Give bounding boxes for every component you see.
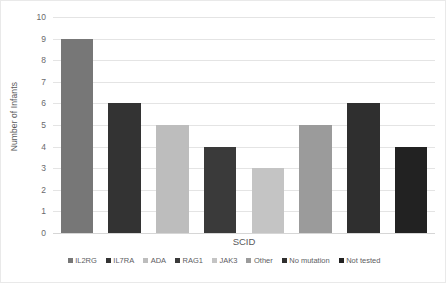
legend-item-label: IL2RG [75,257,97,265]
legend-item-no-mutation[interactable]: No mutation [282,257,330,265]
y-tick-label-5: 5 [41,121,46,130]
legend-swatch-icon [175,258,180,263]
y-tick-label-4: 4 [41,142,46,151]
legend-item-label: Not tested [346,257,380,265]
legend-item-label: JAK3 [220,257,238,265]
y-tick-label-7: 7 [41,78,46,87]
y-tick-label-10: 10 [37,13,46,22]
bar-il7ra [108,103,140,233]
y-tick-label-9: 9 [41,34,46,43]
legend-item-not-tested[interactable]: Not tested [339,257,381,265]
x-axis-title: SCID [53,236,435,247]
gridline-0 [53,233,435,234]
legend-item-rag1[interactable]: RAG1 [175,257,203,265]
bar-jak3 [252,168,284,233]
bar-no-mutation [347,103,379,233]
chart-legend: IL2RGIL7RAADARAG1JAK3OtherNo mutationNot… [1,257,446,265]
legend-swatch-icon [143,258,148,263]
y-tick-label-1: 1 [41,207,46,216]
legend-item-label: Other [254,257,273,265]
bar-il2rg [61,39,93,233]
y-tick-label-6: 6 [41,99,46,108]
y-tick-label-3: 3 [41,164,46,173]
legend-item-label: IL7RA [113,257,134,265]
plot-area: 012345678910 [53,17,435,233]
legend-swatch-icon [246,258,251,263]
y-axis-title: Number of Infants [5,1,23,233]
legend-swatch-icon [212,258,217,263]
legend-swatch-icon [282,258,287,263]
bar-other [299,125,331,233]
y-tick-label-2: 2 [41,186,46,195]
legend-item-label: No mutation [289,257,329,265]
legend-item-label: RAG1 [183,257,203,265]
bar-rag1 [204,147,236,233]
legend-swatch-icon [339,258,344,263]
bar-ada [156,125,188,233]
legend-item-jak3[interactable]: JAK3 [212,257,237,265]
y-tick-label-8: 8 [41,56,46,65]
bar-chart-figure: Number of Infants 012345678910 SCID IL2R… [0,0,446,283]
legend-item-il7ra[interactable]: IL7RA [106,257,134,265]
bar-series [53,17,435,233]
bar-not-tested [395,147,427,233]
legend-swatch-icon [106,258,111,263]
legend-item-il2rg[interactable]: IL2RG [68,257,97,265]
y-tick-label-0: 0 [41,229,46,238]
legend-item-ada[interactable]: ADA [143,257,166,265]
legend-item-label: ADA [151,257,166,265]
legend-item-other[interactable]: Other [246,257,272,265]
legend-swatch-icon [68,258,73,263]
y-axis-title-text: Number of Infants [9,82,19,151]
